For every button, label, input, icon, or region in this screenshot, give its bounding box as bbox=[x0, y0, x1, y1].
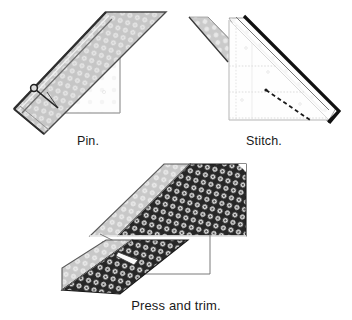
pin-upper-strip bbox=[14, 12, 166, 134]
caption-stitch: Stitch. bbox=[176, 134, 352, 148]
panel-press-illustration bbox=[60, 160, 292, 298]
caption-press: Press and trim. bbox=[60, 298, 292, 313]
instruction-figure: Pin. bbox=[0, 0, 352, 320]
panel-stitch-illustration bbox=[176, 0, 352, 134]
stitch-base-triangle bbox=[229, 20, 329, 120]
panel-stitch: Stitch. bbox=[176, 0, 352, 160]
caption-pin: Pin. bbox=[0, 134, 176, 148]
panel-press: Press and trim. bbox=[60, 160, 292, 320]
press-lower-strip bbox=[62, 240, 188, 294]
panel-pin-illustration bbox=[0, 0, 176, 134]
press-upper-strip bbox=[90, 164, 246, 236]
panel-pin: Pin. bbox=[0, 0, 176, 160]
